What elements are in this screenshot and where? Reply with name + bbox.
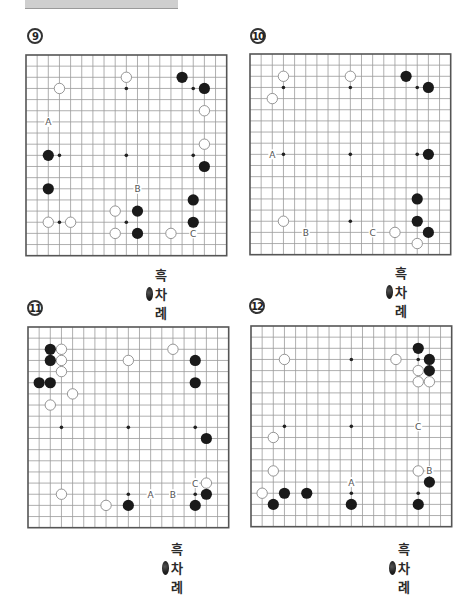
white-stone[interactable] [168, 344, 178, 354]
white-stone[interactable] [413, 377, 423, 387]
point-label-c: C [415, 422, 421, 432]
go-board[interactable]: ABC [25, 54, 228, 257]
white-stone[interactable] [123, 355, 133, 365]
white-stone[interactable] [201, 478, 211, 488]
white-stone[interactable] [345, 71, 355, 81]
black-stone[interactable] [190, 355, 201, 366]
legend-label: 흑차례 [171, 539, 190, 596]
white-stone[interactable] [199, 139, 209, 149]
white-stone[interactable] [110, 206, 120, 216]
star-point [193, 492, 197, 496]
black-stone[interactable] [45, 344, 56, 355]
white-stone[interactable] [56, 344, 66, 354]
white-stone[interactable] [268, 432, 278, 442]
white-stone[interactable] [279, 354, 289, 364]
black-stone[interactable] [423, 227, 434, 238]
black-stone[interactable] [413, 343, 424, 354]
black-stone[interactable] [412, 193, 423, 204]
white-stone[interactable] [257, 488, 267, 498]
board-grid: ABC [25, 54, 228, 257]
star-point [416, 491, 420, 495]
star-point [282, 153, 286, 157]
point-label-b: B [303, 228, 309, 238]
legend-label: 흑차례 [395, 263, 414, 320]
star-point [191, 87, 195, 91]
black-stone[interactable] [424, 365, 435, 376]
black-stone[interactable] [188, 194, 199, 205]
black-stone[interactable] [132, 205, 143, 216]
white-stone[interactable] [268, 466, 278, 476]
black-stone[interactable] [188, 217, 199, 228]
white-stone[interactable] [67, 389, 77, 399]
black-stone[interactable] [43, 183, 54, 194]
white-stone[interactable] [101, 500, 111, 510]
star-point [350, 425, 354, 429]
star-point [127, 426, 131, 430]
white-stone[interactable] [45, 400, 55, 410]
white-stone[interactable] [121, 72, 131, 82]
star-point [349, 219, 353, 223]
white-stone[interactable] [267, 93, 277, 103]
black-stone[interactable] [199, 161, 210, 172]
black-stone[interactable] [423, 82, 434, 93]
black-stone[interactable] [423, 149, 434, 160]
white-stone[interactable] [391, 354, 401, 364]
white-stone[interactable] [110, 228, 120, 238]
white-stone[interactable] [166, 228, 176, 238]
point-label-c: C [190, 229, 196, 239]
point-label-a: A [148, 490, 155, 500]
star-point [416, 358, 420, 362]
black-stone[interactable] [412, 216, 423, 227]
black-stone[interactable] [201, 489, 212, 500]
white-stone[interactable] [65, 217, 75, 227]
go-board[interactable]: CAB [27, 326, 230, 529]
problem-number-badge: 9 [27, 28, 43, 44]
point-label-a: A [348, 478, 355, 488]
star-point [58, 154, 62, 158]
black-stone[interactable] [43, 150, 54, 161]
white-stone[interactable] [413, 365, 423, 375]
white-stone[interactable] [413, 466, 423, 476]
black-stone[interactable] [132, 228, 143, 239]
black-stone[interactable] [190, 377, 201, 388]
white-stone[interactable] [412, 238, 422, 248]
black-stone[interactable] [346, 499, 357, 510]
star-point [58, 220, 62, 224]
white-stone[interactable] [56, 489, 66, 499]
black-stone[interactable] [268, 499, 279, 510]
white-stone[interactable] [199, 106, 209, 116]
white-stone[interactable] [278, 216, 288, 226]
problem-number-badge: 10 [250, 28, 266, 44]
go-board[interactable]: ABC [249, 53, 452, 256]
black-stone[interactable] [201, 433, 212, 444]
black-stone[interactable] [400, 71, 411, 82]
white-stone[interactable] [43, 217, 53, 227]
white-stone[interactable] [56, 355, 66, 365]
white-stone[interactable] [278, 71, 288, 81]
black-stone[interactable] [34, 377, 45, 388]
turn-legend: 흑차례 [389, 539, 417, 596]
black-stone[interactable] [199, 83, 210, 94]
section-banner [25, 0, 178, 9]
board-grid: CBA [250, 325, 453, 528]
white-stone[interactable] [390, 227, 400, 237]
star-point [125, 220, 129, 224]
black-stone[interactable] [123, 500, 134, 511]
black-stone[interactable] [424, 476, 435, 487]
black-stone[interactable] [413, 499, 424, 510]
black-stone[interactable] [301, 488, 312, 499]
white-stone[interactable] [56, 366, 66, 376]
turn-legend: 흑차례 [146, 265, 174, 322]
star-point [125, 87, 129, 91]
star-point [282, 86, 286, 90]
black-stone[interactable] [45, 355, 56, 366]
black-stone[interactable] [424, 354, 435, 365]
black-stone[interactable] [190, 500, 201, 511]
black-stone[interactable] [45, 377, 56, 388]
black-stone-icon [386, 285, 393, 299]
go-board[interactable]: CBA [250, 325, 453, 528]
black-stone[interactable] [279, 488, 290, 499]
white-stone[interactable] [424, 377, 434, 387]
black-stone[interactable] [176, 72, 187, 83]
white-stone[interactable] [54, 83, 64, 93]
